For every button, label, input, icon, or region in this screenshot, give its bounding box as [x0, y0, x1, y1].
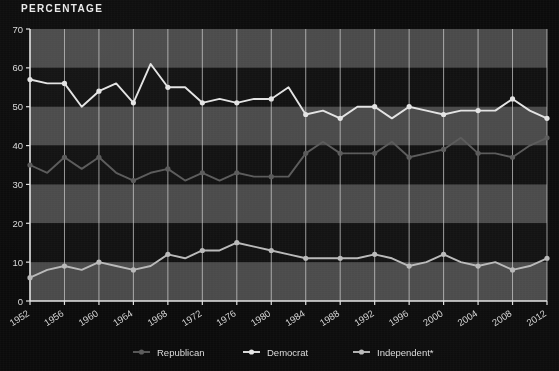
x-tick-label: 2000 [421, 307, 445, 328]
data-point-independent [407, 263, 412, 268]
data-point-republican [62, 155, 67, 160]
data-point-republican [200, 170, 205, 175]
data-point-democrat [165, 85, 170, 90]
legend-swatch-marker [249, 349, 254, 354]
party-identification-line-chart: 010203040506070 195219561960196419681972… [0, 0, 559, 371]
data-point-independent [441, 252, 446, 257]
x-tick-label: 1952 [7, 307, 31, 328]
data-point-independent [131, 267, 136, 272]
data-point-republican [407, 155, 412, 160]
data-point-democrat [303, 112, 308, 117]
data-point-independent [96, 260, 101, 265]
data-point-democrat [544, 116, 549, 121]
chart-legend: RepublicanDemocratIndependent* [133, 347, 434, 358]
data-point-republican [165, 166, 170, 171]
x-tick-label: 1972 [180, 307, 204, 328]
y-tick-label: 0 [18, 296, 23, 307]
data-point-republican [544, 135, 549, 140]
data-point-independent [338, 256, 343, 261]
y-tick-label: 60 [12, 62, 23, 73]
data-point-independent [303, 256, 308, 261]
data-point-democrat [269, 96, 274, 101]
x-tick-label: 2012 [524, 307, 548, 328]
plot-band [30, 223, 547, 262]
data-point-republican [234, 170, 239, 175]
data-point-independent [165, 252, 170, 257]
chart-page: PERCENTAGE 010203040506070 1952195619601… [0, 0, 559, 371]
data-point-republican [475, 151, 480, 156]
data-point-democrat [131, 100, 136, 105]
data-point-republican [338, 151, 343, 156]
x-tick-label: 1988 [318, 307, 342, 328]
plot-band [30, 262, 547, 301]
plot-band [30, 184, 547, 223]
x-tick-label: 1976 [214, 307, 238, 328]
x-tick-label: 1996 [387, 307, 411, 328]
x-tick-label: 1956 [42, 307, 66, 328]
data-point-republican [27, 162, 32, 167]
data-point-republican [510, 155, 515, 160]
y-tick-label: 50 [12, 101, 23, 112]
plot-band [30, 107, 547, 146]
data-point-republican [131, 178, 136, 183]
y-tick-label: 10 [12, 257, 23, 268]
x-tick-label: 1984 [283, 307, 307, 328]
data-point-independent [544, 256, 549, 261]
data-point-democrat [441, 112, 446, 117]
legend-swatch-marker [139, 349, 144, 354]
x-tick-label: 2008 [490, 307, 514, 328]
data-point-democrat [27, 77, 32, 82]
data-point-democrat [234, 100, 239, 105]
data-point-republican [441, 147, 446, 152]
y-tick-label: 70 [12, 24, 23, 35]
data-point-independent [200, 248, 205, 253]
x-tick-label: 2004 [455, 307, 479, 328]
x-tick-label: 1960 [76, 307, 100, 328]
x-axis-ticks: 1952195619601964196819721976198019841988… [7, 301, 548, 328]
legend-label: Republican [157, 347, 205, 358]
data-point-independent [510, 267, 515, 272]
x-tick-label: 1980 [249, 307, 273, 328]
data-point-independent [234, 240, 239, 245]
data-point-republican [303, 151, 308, 156]
data-point-independent [62, 263, 67, 268]
y-tick-label: 20 [12, 218, 23, 229]
y-axis-ticks: 010203040506070 [12, 24, 30, 307]
data-point-independent [475, 263, 480, 268]
data-point-democrat [96, 89, 101, 94]
data-point-democrat [475, 108, 480, 113]
data-point-democrat [338, 116, 343, 121]
data-point-independent [269, 248, 274, 253]
data-point-independent [27, 275, 32, 280]
data-point-democrat [200, 100, 205, 105]
data-point-republican [269, 174, 274, 179]
y-tick-label: 40 [12, 140, 23, 151]
plot-band [30, 29, 547, 68]
x-tick-label: 1992 [352, 307, 376, 328]
data-point-republican [372, 151, 377, 156]
data-point-republican [96, 155, 101, 160]
legend-swatch-marker [359, 349, 364, 354]
x-tick-label: 1964 [111, 307, 135, 328]
data-point-independent [372, 252, 377, 257]
x-tick-label: 1968 [145, 307, 169, 328]
y-tick-label: 30 [12, 179, 23, 190]
legend-label: Democrat [267, 347, 309, 358]
data-point-democrat [407, 104, 412, 109]
data-point-democrat [510, 96, 515, 101]
legend-label: Independent* [377, 347, 434, 358]
data-point-democrat [372, 104, 377, 109]
data-point-democrat [62, 81, 67, 86]
